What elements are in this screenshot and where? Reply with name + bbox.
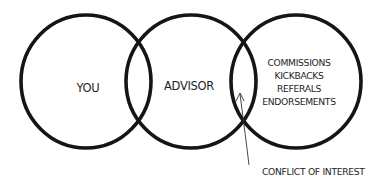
label-you: YOU: [76, 81, 100, 95]
incentive-item-commissions: COMMISSIONS: [267, 57, 331, 68]
circle-incentives: [231, 15, 361, 148]
incentive-item-referals: REFERALS: [277, 83, 322, 94]
venn-diagram: YOU ADVISOR COMMISSIONS KICKBACKS REFERA…: [0, 0, 377, 190]
incentive-item-kickbacks: KICKBACKS: [274, 70, 324, 81]
label-advisor: ADVISOR: [164, 79, 214, 93]
incentive-item-endorsements: ENDORSEMENTS: [262, 96, 336, 107]
callout-conflict-of-interest: CONFLICT OF INTEREST: [262, 166, 365, 177]
